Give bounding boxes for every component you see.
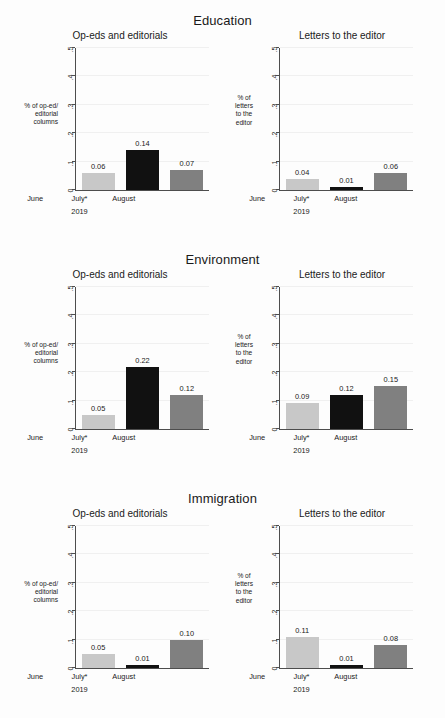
y-axis-label-line: % of op-ed/ <box>0 102 58 110</box>
y-axis-label-line: % of <box>222 94 266 102</box>
y-axis-tick: .4 <box>266 75 279 76</box>
x-axis: JuneJuly*August2019 <box>13 191 146 221</box>
y-axis-tick: .5 <box>62 47 75 48</box>
x-axis-caption: 2019 <box>235 446 368 456</box>
bar-group: 0.050.010.10 <box>76 526 209 668</box>
bar[interactable] <box>286 179 319 190</box>
bar-item[interactable]: 0.01 <box>330 48 363 190</box>
y-axis-ticks: 0.1.2.3.4.5 <box>266 48 279 190</box>
bar[interactable] <box>170 170 203 190</box>
bar-item[interactable]: 0.01 <box>330 526 363 668</box>
y-axis-tick: .3 <box>266 343 279 344</box>
subplot-title: Letters to the editor <box>240 508 444 520</box>
subplot-row: Op-eds and editorials% of op-ed/editoria… <box>0 508 445 699</box>
bar[interactable] <box>170 395 203 429</box>
bar-item[interactable]: 0.12 <box>170 287 203 429</box>
x-axis-tick-label: August <box>104 433 144 443</box>
bar-item[interactable]: 0.12 <box>330 287 363 429</box>
bar[interactable] <box>374 386 407 429</box>
y-axis-label-line: columns <box>0 596 58 604</box>
bar[interactable] <box>170 640 203 668</box>
y-axis-tick: .4 <box>266 553 279 554</box>
x-axis: JuneJuly*August2019 <box>13 669 146 699</box>
x-axis-tick-label: August <box>326 672 366 682</box>
subplot: Letters to the editor% oflettersto theed… <box>222 269 444 460</box>
subplot-title: Op-eds and editorials <box>18 508 222 520</box>
bar-item[interactable]: 0.14 <box>126 48 159 190</box>
bar[interactable] <box>82 173 115 190</box>
bar-item[interactable]: 0.22 <box>126 287 159 429</box>
bar-value-label: 0.06 <box>91 162 105 171</box>
bar-group: 0.060.140.07 <box>76 48 209 190</box>
y-axis-tick: .5 <box>266 47 279 48</box>
bar-item[interactable]: 0.09 <box>286 287 319 429</box>
y-axis-label-line: editor <box>222 358 266 366</box>
bar[interactable] <box>374 173 407 190</box>
x-axis-caption: 2019 <box>235 207 368 217</box>
subplot: Letters to the editor% oflettersto theed… <box>222 508 444 699</box>
bar[interactable] <box>286 637 319 668</box>
y-axis-label-line: % of op-ed/ <box>0 341 58 349</box>
y-axis-tick: .4 <box>62 314 75 315</box>
bar-value-label: 0.06 <box>384 162 398 171</box>
y-axis-tick: .3 <box>266 104 279 105</box>
y-axis-label-line: to the <box>222 110 266 118</box>
y-axis-label-line: % of <box>222 572 266 580</box>
bar-item[interactable]: 0.04 <box>286 48 319 190</box>
bar-item[interactable]: 0.08 <box>374 526 407 668</box>
y-axis-tick: .2 <box>62 610 75 611</box>
subplot-title: Op-eds and editorials <box>18 30 222 42</box>
bar[interactable] <box>82 654 115 668</box>
bar-item[interactable]: 0.06 <box>82 48 115 190</box>
y-axis-label-line: editor <box>222 119 266 127</box>
bar-item[interactable]: 0.06 <box>374 48 407 190</box>
subplot: Op-eds and editorials% of op-ed/editoria… <box>0 508 222 699</box>
chart-section: ImmigrationOp-eds and editorials% of op-… <box>0 478 445 717</box>
y-axis-label-line: % of op-ed/ <box>0 580 58 588</box>
y-axis-tick: .5 <box>266 525 279 526</box>
bar-item[interactable]: 0.15 <box>374 287 407 429</box>
y-axis-tick: .1 <box>62 639 75 640</box>
bar-item[interactable]: 0.05 <box>82 526 115 668</box>
y-axis-label-line: to the <box>222 588 266 596</box>
y-axis-tick: 0 <box>266 189 279 190</box>
y-axis-tick: 0 <box>266 667 279 668</box>
bar[interactable] <box>126 367 159 429</box>
bar-item[interactable]: 0.05 <box>82 287 115 429</box>
y-axis-label-line: to the <box>222 349 266 357</box>
subplot: Op-eds and editorials% of op-ed/editoria… <box>0 269 222 460</box>
bar-item[interactable]: 0.01 <box>126 526 159 668</box>
bar[interactable] <box>330 665 363 668</box>
x-axis-tick-label: June <box>15 672 55 682</box>
bar-group: 0.040.010.06 <box>280 48 413 190</box>
y-axis-tick: .5 <box>62 286 75 287</box>
y-axis-label-line: editorial <box>0 110 58 118</box>
y-axis-tick: .3 <box>266 582 279 583</box>
bar-value-label: 0.04 <box>295 168 309 177</box>
x-axis-tick-label: July* <box>59 194 99 204</box>
y-axis-ticks: 0.1.2.3.4.5 <box>62 526 75 668</box>
bar-item[interactable]: 0.10 <box>170 526 203 668</box>
y-axis-tick: 0 <box>266 428 279 429</box>
y-axis-label-line: editorial <box>0 588 58 596</box>
bar[interactable] <box>330 395 363 429</box>
y-axis-tick: .2 <box>266 610 279 611</box>
x-axis-tick-label: July* <box>281 194 321 204</box>
bar[interactable] <box>286 403 319 429</box>
bar-item[interactable]: 0.07 <box>170 48 203 190</box>
section-title: Education <box>0 0 445 29</box>
bar-value-label: 0.09 <box>295 392 309 401</box>
x-axis-caption: 2019 <box>13 446 146 456</box>
bar[interactable] <box>374 645 407 668</box>
bar-value-label: 0.14 <box>135 139 149 148</box>
y-axis-label: % oflettersto theeditor <box>222 287 266 430</box>
plot-area: 0.040.010.06 <box>279 48 413 191</box>
y-axis-tick: .1 <box>62 400 75 401</box>
bar[interactable] <box>330 187 363 190</box>
bar[interactable] <box>126 150 159 190</box>
bar[interactable] <box>126 665 159 668</box>
bar[interactable] <box>82 415 115 429</box>
plot-area: 0.110.010.08 <box>279 526 413 669</box>
plot-area: 0.050.220.12 <box>75 287 209 430</box>
bar-item[interactable]: 0.11 <box>286 526 319 668</box>
